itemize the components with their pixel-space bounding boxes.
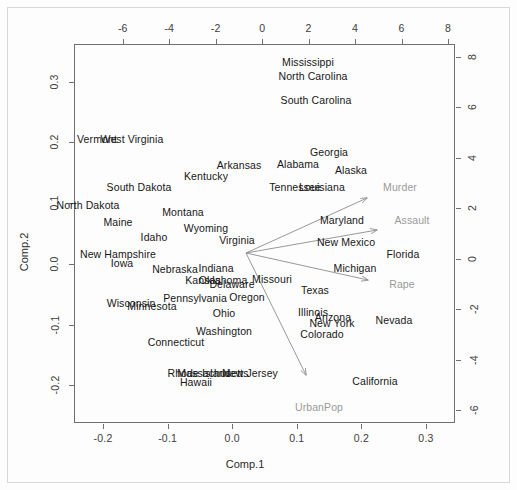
axis-tick-label: -6 [468, 405, 480, 415]
axis-tick [168, 424, 169, 429]
observation-label: West Virginia [101, 133, 164, 145]
axis-tick [69, 325, 74, 326]
axis-tick [103, 424, 104, 429]
axis-tick-label: -4 [468, 355, 480, 365]
axis-tick [69, 82, 74, 83]
axis-tick [456, 410, 461, 411]
observation-label: Connecticut [148, 336, 205, 348]
axis-tick [456, 158, 461, 159]
axis-tick-label: -6 [118, 22, 128, 34]
axis-tick-label: 6 [399, 22, 405, 34]
observation-label: Delaware [209, 278, 254, 290]
biplot-figure: -6-4-202468-0.2-0.10.00.10.20.30.30.20.1… [0, 0, 517, 490]
axis-tick [232, 424, 233, 429]
axis-tick [69, 264, 74, 265]
axis-tick-label: -0.2 [94, 432, 113, 444]
axis-tick-label: 0.2 [354, 432, 369, 444]
axis-tick [355, 39, 356, 44]
axis-tick-label: -0.2 [49, 376, 61, 395]
observation-label: Hawaii [180, 376, 212, 388]
axis-tick [448, 39, 449, 44]
axis-tick-label: 0.3 [48, 74, 60, 89]
observation-label: Montana [162, 206, 204, 218]
observation-label: South Carolina [281, 94, 352, 106]
observation-label: Michigan [334, 262, 377, 274]
observation-label: Oregon [229, 291, 265, 303]
axis-tick [456, 107, 461, 108]
observation-label: Kentucky [184, 170, 228, 182]
axis-tick-label: 0.2 [48, 135, 60, 150]
observation-label: Louisiana [299, 181, 345, 193]
observation-label: New Jersey [222, 367, 278, 379]
axis-tick-label: -0.1 [158, 432, 177, 444]
observation-label: Alabama [277, 158, 319, 170]
observation-label: Wyoming [184, 222, 228, 234]
observation-label: New Mexico [317, 236, 375, 248]
observation-label: Florida [387, 248, 420, 260]
axis-tick [262, 39, 263, 44]
axis-tick-label: 6 [466, 104, 478, 110]
axis-tick-label: 0.3 [418, 432, 433, 444]
axis-tick [402, 39, 403, 44]
axis-tick-label: -4 [164, 22, 174, 34]
axis-tick [216, 39, 217, 44]
axis-tick [456, 360, 461, 361]
axis-tick [456, 57, 461, 58]
axis-tick-label: 0.0 [225, 432, 240, 444]
axis-tick-label: -2 [211, 22, 221, 34]
observation-label: North Carolina [278, 70, 347, 82]
axis-tick [69, 142, 74, 143]
variable-label: Murder [383, 181, 417, 193]
axis-tick-label: 8 [466, 54, 478, 60]
observation-label: Washington [196, 325, 252, 337]
observation-label: Idaho [141, 231, 168, 243]
axis-tick [456, 309, 461, 310]
observation-label: Minnesota [127, 300, 176, 312]
axis-tick-label: -2 [468, 304, 480, 314]
axis-tick [426, 424, 427, 429]
axis-tick-label: 4 [466, 155, 478, 161]
axis-tick-label: 0.1 [289, 432, 304, 444]
axis-tick-label: 0 [259, 22, 265, 34]
axis-tick [361, 424, 362, 429]
observation-label: North Dakota [56, 199, 119, 211]
axis-tick-label: 2 [466, 205, 478, 211]
observation-label: Maine [103, 216, 132, 228]
variable-label: UrbanPop [295, 401, 343, 413]
observation-label: Missouri [252, 273, 292, 285]
observation-label: Maryland [320, 214, 364, 226]
axis-tick [456, 259, 461, 260]
axis-tick-label: 0.0 [48, 256, 60, 271]
observation-label: Virginia [219, 234, 255, 246]
observation-label: Indiana [198, 262, 233, 274]
axis-tick [297, 424, 298, 429]
axis-tick-label: 8 [445, 22, 451, 34]
observation-label: Alaska [335, 164, 367, 176]
axis-tick-label: 4 [352, 22, 358, 34]
observation-label: Colorado [300, 328, 343, 340]
observation-label: California [352, 375, 397, 387]
axis-tick [69, 385, 74, 386]
observation-label: Mississippi [282, 56, 334, 68]
x-axis-title: Comp.1 [226, 458, 265, 470]
axis-tick [123, 39, 124, 44]
observation-label: Georgia [310, 146, 348, 158]
observation-label: South Dakota [107, 181, 172, 193]
variable-label: Rape [389, 278, 415, 290]
observation-label: Iowa [111, 257, 134, 269]
observation-label: Ohio [213, 307, 236, 319]
observation-label: Texas [301, 284, 329, 296]
axis-tick [456, 208, 461, 209]
axis-tick [309, 39, 310, 44]
axis-tick [169, 39, 170, 44]
observation-label: Nevada [376, 314, 413, 326]
axis-tick-label: -0.1 [49, 315, 61, 334]
axis-tick-label: 0 [466, 256, 478, 262]
variable-label: Assault [394, 214, 429, 226]
y-axis-title: Comp.2 [18, 232, 30, 272]
axis-tick-label: 2 [306, 22, 312, 34]
